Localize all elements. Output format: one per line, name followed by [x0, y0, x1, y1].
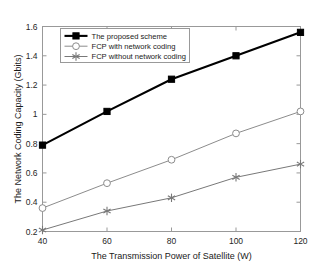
series-marker — [297, 108, 304, 115]
y-tick-label: 0.2 — [26, 227, 38, 237]
y-tick-label: 1.2 — [26, 80, 38, 90]
x-tick-label: 120 — [293, 236, 307, 246]
series-marker — [297, 29, 303, 35]
series-marker — [39, 205, 46, 212]
x-tick-label: 60 — [102, 236, 112, 246]
legend-label: The proposed scheme — [92, 32, 168, 41]
x-tick-label: 80 — [167, 236, 177, 246]
legend-label: FCP without network coding — [92, 52, 186, 61]
y-tick-label: 1 — [33, 109, 38, 119]
x-tick-label: 100 — [229, 236, 243, 246]
series-marker — [233, 53, 239, 59]
legend-label: FCP with network coding — [92, 42, 176, 51]
figure-container: 0.20.40.60.811.21.41.6406080100120The Tr… — [0, 0, 325, 272]
series-marker — [168, 76, 174, 82]
y-tick-label: 0.4 — [26, 197, 38, 207]
x-tick-label: 40 — [38, 236, 48, 246]
y-tick-label: 0.8 — [26, 139, 38, 149]
series-marker — [39, 142, 45, 148]
series-marker — [104, 180, 111, 187]
x-axis-title: The Transmission Power of Satellite (W) — [91, 251, 252, 261]
series-marker — [233, 130, 240, 137]
y-tick-label: 1.4 — [26, 51, 38, 61]
chart-canvas: 0.20.40.60.811.21.41.6406080100120The Tr… — [0, 0, 325, 272]
series-marker — [168, 156, 175, 163]
series-marker — [104, 108, 110, 114]
y-tick-label: 1.6 — [26, 22, 38, 32]
y-tick-label: 0.6 — [26, 168, 38, 178]
y-axis-title: The Network Coding Capacity (Gbits) — [13, 54, 23, 203]
